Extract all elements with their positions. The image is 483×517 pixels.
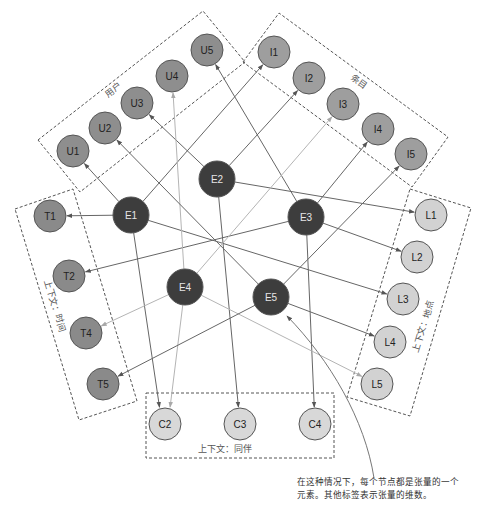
node-e3: E3 [288,199,324,235]
node-l5: L5 [361,368,393,400]
node-e5: E5 [253,279,289,315]
edge-e4-u4 [173,93,184,269]
node-label: E2 [211,174,224,185]
node-label: U1 [67,146,80,157]
node-i2: I2 [293,62,325,94]
node-label: T2 [63,271,75,282]
edge-e3-c4 [307,235,314,407]
group-label-items: 条目 [349,72,370,91]
node-i1: I1 [258,36,290,68]
node-label: C3 [234,419,247,430]
group-label-users: 用户 [102,80,123,100]
node-l4: L4 [374,326,406,358]
node-t1: T1 [34,200,66,232]
node-label: U4 [166,71,179,82]
node-label: I3 [339,99,348,110]
node-label: U5 [201,45,214,56]
edge-e1-u1 [84,164,118,202]
node-label: L2 [411,252,423,263]
node-label: E3 [300,212,313,223]
node-e1: E1 [113,197,149,233]
node-label: E4 [179,282,192,293]
node-label: E1 [125,210,138,221]
node-label: I5 [407,149,416,160]
node-label: C2 [159,419,172,430]
node-label: C4 [309,419,322,430]
node-u5: U5 [191,34,223,66]
node-label: T1 [44,211,56,222]
node-t2: T2 [53,260,85,292]
node-l1: L1 [415,199,447,231]
nodes: E1E2E3E4E5U1U2U3U4U5I1I2I3I4I5T1T2T4T5L1… [34,34,447,440]
node-label: T4 [80,328,92,339]
annotation-note: 在这种情况下，每个节点都是张量的一个元素。其他标签表示张量的维数。 [297,476,462,501]
edges [67,65,414,408]
node-u1: U1 [57,135,89,167]
node-i5: I5 [395,138,427,170]
node-label: L1 [425,210,437,221]
node-label: I2 [305,73,314,84]
node-label: U2 [99,123,112,134]
group-label-companion: 上下文：同伴 [198,443,252,454]
node-i4: I4 [362,113,394,145]
node-c3: C3 [224,408,256,440]
edge-e4-c2 [170,305,183,407]
node-i3: I3 [327,88,359,120]
node-label: L5 [371,379,383,390]
node-t5: T5 [87,368,119,400]
node-c4: C4 [299,408,331,440]
edge-e3-l2 [323,223,401,251]
node-label: L3 [397,294,409,305]
node-label: L4 [384,337,396,348]
node-u2: U2 [89,112,121,144]
node-label: I1 [270,47,279,58]
edge-e3-i4 [317,142,367,203]
node-t4: T4 [70,317,102,349]
node-c2: C2 [149,408,181,440]
edge-e2-l1 [235,182,414,212]
node-label: E5 [265,292,278,303]
node-e4: E4 [167,269,203,305]
node-u4: U4 [156,60,188,92]
annotation-callout-line [287,316,374,478]
group-boxes [15,11,471,458]
edge-e1-t1 [67,215,113,216]
node-e2: E2 [199,161,235,197]
node-label: U3 [131,98,144,109]
tensor-graph-diagram: 用户 条目 上下文：时间 上下文：地点 上下文：同伴 E1E2E3E4E5U1U… [0,0,483,517]
node-u3: U3 [121,87,153,119]
node-l2: L2 [401,241,433,273]
edge-e2-i2 [229,91,297,166]
edge-e4-t4 [101,295,168,326]
node-l3: L3 [387,283,419,315]
node-label: T5 [97,379,109,390]
edge-e3-t2 [85,221,288,272]
node-label: I4 [374,124,383,135]
